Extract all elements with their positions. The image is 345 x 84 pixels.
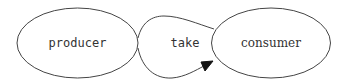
edge-take-label: take — [171, 36, 200, 50]
consumer-label: consumer — [241, 36, 301, 50]
producer-label: producer — [49, 36, 107, 50]
edge-take: take — [138, 16, 214, 78]
node-consumer: consumer — [212, 8, 331, 78]
diagram-svg: producer take consumer — [0, 0, 345, 84]
edge-take-upper-path — [138, 16, 214, 38]
edge-take-lower-path — [138, 48, 204, 78]
node-producer: producer — [17, 8, 138, 78]
arrow-head-icon — [201, 61, 213, 71]
diagram-canvas: producer take consumer — [0, 0, 345, 84]
